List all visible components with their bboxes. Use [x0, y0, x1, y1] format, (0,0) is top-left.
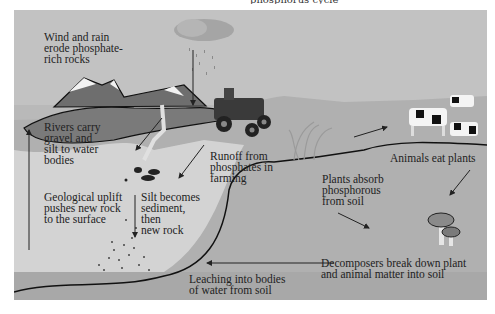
phosphorus-cycle-diagram: Wind and rain erode phosphate- rich rock… [14, 10, 487, 300]
label-leaching: Leaching into bodies of water from soil [189, 274, 285, 296]
label-uplift: Geological uplift pushes new rock to the… [44, 192, 122, 225]
label-decomposers: Decomposers break down plant and animal … [321, 258, 466, 280]
label-silt: Silt becomes sediment, then new rock [141, 192, 200, 236]
title-fragment: phosphorus cycle [0, 0, 495, 4]
title-text-cut: phosphorus cycle [250, 0, 338, 4]
label-rivers: Rivers carry gravel and silt to water bo… [44, 122, 101, 166]
label-plants-absorb: Plants absorb phosphorous from soil [322, 174, 384, 207]
label-wind-rain: Wind and rain erode phosphate- rich rock… [44, 32, 123, 65]
label-animals-eat: Animals eat plants [390, 153, 476, 164]
label-runoff: Runoff from phosphates in farming [210, 151, 273, 184]
